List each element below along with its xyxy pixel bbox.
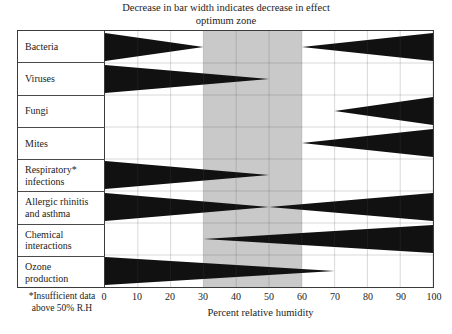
row-label-line2: production — [25, 273, 68, 285]
row-label-column: BacteriaVirusesFungiMitesRespiratory*inf… — [18, 31, 105, 287]
row-label: Mites — [18, 128, 105, 160]
chart-title-line1: Decrease in bar width indicates decrease… — [122, 2, 330, 13]
row-label-line1: Mites — [25, 138, 48, 150]
plot-area — [105, 31, 433, 287]
row-label-line1: Viruses — [25, 73, 55, 85]
x-tick-label: 40 — [231, 290, 241, 303]
row-label: Fungi — [18, 96, 105, 128]
row-label-line1: Allergic rhinitis — [25, 196, 88, 208]
x-tick-label: 20 — [165, 290, 175, 303]
chart-container: Decrease in bar width indicates decrease… — [0, 0, 452, 334]
x-tick-label: 70 — [330, 290, 340, 303]
row-label-line2: infections — [25, 176, 77, 188]
row-label: Chemicalinteractions — [18, 225, 105, 257]
wedge-bar — [105, 33, 203, 61]
footnote-line1: *Insufficient data — [14, 291, 110, 303]
chart-title: Decrease in bar width indicates decrease… — [0, 2, 452, 27]
footnote-line2: above 50% R.H — [14, 303, 110, 315]
x-tick-label: 60 — [297, 290, 307, 303]
x-tick-label: 100 — [427, 290, 442, 303]
x-tick-label: 10 — [132, 290, 142, 303]
x-tick-label: 80 — [363, 290, 373, 303]
wedge-bar — [335, 97, 433, 125]
row-label: Bacteria — [18, 31, 105, 63]
row-label: Allergic rhinitisand asthma — [18, 192, 105, 224]
row-label-line1: Respiratory* — [25, 164, 77, 176]
x-tick-label: 50 — [264, 290, 274, 303]
x-tick-label: 30 — [198, 290, 208, 303]
chart-frame: BacteriaVirusesFungiMitesRespiratory*inf… — [17, 30, 434, 288]
bars-svg — [105, 31, 433, 287]
row-label: Viruses — [18, 63, 105, 95]
row-label-line2: and asthma — [25, 208, 88, 220]
row-label: Respiratory*infections — [18, 160, 105, 192]
chart-title-line2: optimum zone — [0, 15, 452, 28]
row-label: Ozoneproduction — [18, 257, 105, 289]
row-label-line1: Fungi — [25, 105, 48, 117]
x-tick-label: 90 — [396, 290, 406, 303]
x-axis-title: Percent relative humidity — [87, 307, 434, 318]
row-label-line1: Ozone — [25, 261, 68, 273]
row-label-line1: Bacteria — [25, 41, 58, 53]
row-label-line1: Chemical — [25, 229, 72, 241]
footnote: *Insufficient data above 50% R.H — [14, 291, 110, 314]
row-label-line2: interactions — [25, 240, 72, 252]
